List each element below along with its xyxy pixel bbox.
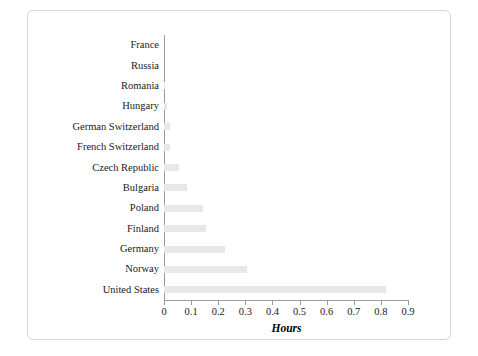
- x-tick-mark: [408, 301, 409, 305]
- x-tick-mark: [164, 301, 165, 305]
- category-label: Hungary: [122, 100, 159, 111]
- chart-card: FranceRussiaRomaniaHungaryGerman Switzer…: [27, 10, 451, 340]
- x-tick-mark: [245, 301, 246, 305]
- x-tick-label: 0.4: [257, 306, 287, 317]
- bar: [164, 144, 170, 151]
- bar: [164, 164, 179, 171]
- x-tick-mark: [300, 301, 301, 305]
- x-axis-line: [164, 300, 409, 301]
- x-tick-label: 0.9: [393, 306, 423, 317]
- bar: [164, 82, 165, 89]
- category-label: French Switzerland: [77, 141, 159, 152]
- x-tick-label: 0.7: [339, 306, 369, 317]
- x-tick-mark: [354, 301, 355, 305]
- x-tick-label: 0.1: [176, 306, 206, 317]
- bar: [164, 123, 170, 130]
- x-tick-mark: [272, 301, 273, 305]
- x-tick-mark: [218, 301, 219, 305]
- category-label: Norway: [125, 263, 159, 274]
- x-tick-label: 0.6: [312, 306, 342, 317]
- x-tick-label: 0.5: [285, 306, 315, 317]
- category-label: Germany: [120, 243, 159, 254]
- category-label: France: [130, 39, 159, 50]
- category-label: Romania: [121, 80, 159, 91]
- bar: [164, 205, 203, 212]
- x-tick-mark: [191, 301, 192, 305]
- category-axis-labels: FranceRussiaRomaniaHungaryGerman Switzer…: [28, 35, 159, 300]
- category-label: Finland: [127, 223, 159, 234]
- category-label: Poland: [130, 202, 159, 213]
- bar: [164, 225, 206, 232]
- category-label: Russia: [131, 60, 159, 71]
- x-tick-mark: [327, 301, 328, 305]
- bar: [164, 103, 167, 110]
- category-label: Bulgaria: [123, 182, 159, 193]
- category-label: German Switzerland: [72, 121, 159, 132]
- x-tick-label: 0: [149, 306, 179, 317]
- bar: [164, 184, 187, 191]
- plot-area: [164, 35, 408, 300]
- x-axis-title: Hours: [164, 322, 409, 334]
- x-tick-label: 0.8: [366, 306, 396, 317]
- x-tick-label: 0.2: [203, 306, 233, 317]
- x-tick-label: 0.3: [230, 306, 260, 317]
- bar: [164, 246, 225, 253]
- bar: [164, 286, 386, 293]
- category-label: Czech Republic: [92, 162, 159, 173]
- x-tick-mark: [381, 301, 382, 305]
- category-label: United States: [103, 284, 159, 295]
- bar: [164, 266, 247, 273]
